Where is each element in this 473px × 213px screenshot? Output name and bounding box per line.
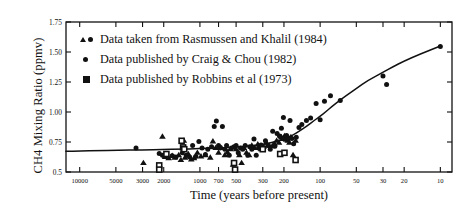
x-tick-label: 30 bbox=[380, 177, 387, 184]
data-point-circle bbox=[268, 147, 273, 152]
data-point-circle bbox=[190, 143, 195, 148]
data-point-circle bbox=[227, 153, 232, 158]
data-point-circle bbox=[234, 143, 239, 148]
legend-item-rasmussen: Data taken from Rasmussen and Khalil (19… bbox=[80, 32, 327, 45]
x-tick-label: 2000 bbox=[157, 177, 171, 184]
data-point-square bbox=[293, 158, 298, 163]
y-tick-label: 1.75 bbox=[49, 18, 62, 27]
data-point-circle bbox=[294, 135, 299, 140]
data-point-circle bbox=[272, 144, 277, 149]
data-point-circle bbox=[200, 146, 205, 151]
data-point-square bbox=[157, 167, 162, 172]
data-point-square bbox=[260, 147, 265, 152]
data-point-circle bbox=[224, 143, 229, 148]
x-tick-label: 5000 bbox=[109, 177, 123, 184]
data-point-circle bbox=[384, 82, 389, 87]
x-axis-title: Time (years before present) bbox=[66, 188, 452, 203]
data-point-circle bbox=[245, 153, 250, 158]
data-point-square bbox=[282, 150, 287, 155]
legend-label-0: Data taken from Rasmussen and Khalil (19… bbox=[100, 33, 327, 45]
x-tick-label: 100 bbox=[315, 177, 326, 184]
data-point-circle bbox=[209, 144, 214, 149]
y-tick-label: 0.75 bbox=[49, 138, 62, 147]
y-tick-label: 0.5 bbox=[53, 168, 63, 177]
legend-label-1: Data published by Craig & Chou (1982) bbox=[100, 53, 296, 65]
x-tick-label: 10 bbox=[437, 177, 444, 184]
data-point-circle bbox=[220, 124, 225, 129]
data-point-circle bbox=[289, 136, 294, 141]
data-point-circle bbox=[218, 146, 223, 151]
data-point-circle bbox=[338, 98, 343, 103]
x-tick-label: 3000 bbox=[136, 177, 150, 184]
data-point-circle bbox=[314, 101, 319, 106]
y-tick-label: 1.00 bbox=[49, 108, 62, 117]
data-point-square bbox=[233, 167, 238, 172]
data-point-circle bbox=[328, 93, 333, 98]
legend-item-robbins: Data published by Robbins et al (1973) bbox=[80, 72, 292, 85]
data-point-square bbox=[164, 152, 169, 157]
figure-container: CH4 Mixing Ratio (ppmv) 1000050003000200… bbox=[0, 0, 473, 213]
data-point-circle bbox=[187, 155, 192, 160]
data-point-square bbox=[182, 147, 187, 152]
data-point-circle bbox=[174, 155, 179, 160]
x-tick-label: 1000 bbox=[193, 177, 207, 184]
x-tick-label: 50 bbox=[353, 177, 360, 184]
x-tick-label: 10000 bbox=[71, 177, 88, 184]
data-point-circle bbox=[318, 117, 323, 122]
x-tick-label: 20 bbox=[401, 177, 408, 184]
data-point-circle bbox=[291, 141, 296, 146]
data-point-circle bbox=[236, 150, 241, 155]
data-point-circle bbox=[254, 153, 259, 158]
data-point-triangle bbox=[238, 160, 245, 165]
legend-marker-group-0 bbox=[80, 34, 100, 44]
square-marker-icon bbox=[83, 76, 90, 83]
triangle-marker-icon bbox=[80, 37, 86, 42]
circle-marker-icon bbox=[83, 57, 88, 62]
data-point-circle bbox=[243, 143, 248, 148]
data-point-circle bbox=[308, 116, 313, 121]
legend-marker-group-2 bbox=[80, 74, 100, 84]
data-point-circle bbox=[380, 74, 385, 79]
data-point-triangle bbox=[290, 152, 297, 157]
data-point-circle bbox=[263, 138, 268, 143]
data-point-circle bbox=[288, 118, 293, 123]
legend-label-2: Data published by Robbins et al (1973) bbox=[100, 73, 292, 85]
data-point-circle bbox=[277, 134, 282, 139]
data-point-circle bbox=[304, 118, 309, 123]
data-point-circle bbox=[251, 137, 256, 142]
data-point-circle bbox=[270, 129, 275, 134]
data-point-circle bbox=[214, 119, 219, 124]
data-point-circle bbox=[279, 126, 284, 131]
data-point-circle bbox=[281, 115, 286, 120]
data-point-square bbox=[232, 161, 237, 166]
legend-item-craig-chou: Data published by Craig & Chou (1982) bbox=[80, 52, 296, 65]
data-point-square bbox=[179, 138, 184, 143]
data-point-circle bbox=[203, 152, 208, 157]
data-point-circle bbox=[438, 44, 443, 49]
x-tick-label: 500 bbox=[231, 177, 242, 184]
data-point-circle bbox=[134, 146, 139, 151]
circle-marker-icon bbox=[88, 37, 93, 42]
data-point-circle bbox=[212, 124, 217, 129]
data-point-circle bbox=[193, 154, 198, 159]
data-point-circle bbox=[249, 147, 254, 152]
data-point-triangle bbox=[210, 138, 217, 143]
y-tick-label: 1.50 bbox=[49, 48, 62, 57]
data-point-circle bbox=[322, 99, 327, 104]
data-point-triangle bbox=[194, 149, 201, 154]
data-point-circle bbox=[299, 122, 304, 127]
data-point-triangle bbox=[159, 133, 166, 138]
data-point-triangle bbox=[140, 160, 147, 165]
y-tick-label: 1.25 bbox=[49, 78, 62, 87]
x-tick-label: 700 bbox=[214, 177, 225, 184]
x-tick-label: 300 bbox=[258, 177, 269, 184]
x-tick-label: 200 bbox=[279, 177, 290, 184]
data-point-circle bbox=[196, 139, 201, 144]
legend-marker-group-1 bbox=[80, 54, 100, 64]
